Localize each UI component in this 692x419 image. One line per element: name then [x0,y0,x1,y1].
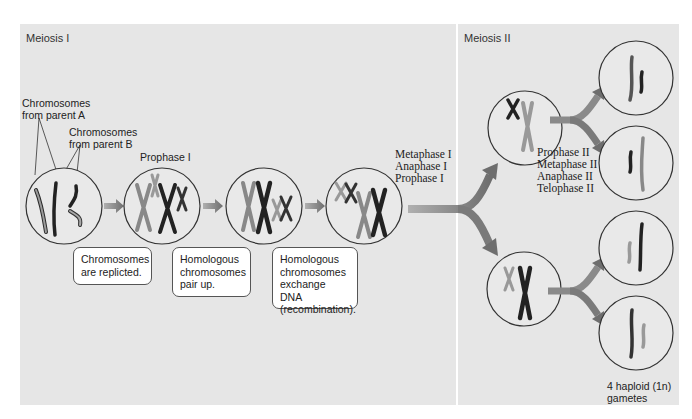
meiosis-2-phases-label: Prophase II Metaphase II Anaphase II Tel… [537,146,597,194]
parent-b-label: Chromosomes from parent B [69,126,137,150]
phase-prophase-2: Prophase II [537,146,597,158]
cell-2-prophase-1 [124,168,200,244]
arrow-1 [104,199,124,213]
gamete-cell-4 [599,296,673,370]
phase-telophase-2: Telophase II [537,182,597,194]
arrow-2 [203,199,223,213]
parent-b-line-1: Chromosomes [69,126,137,138]
phase-metaphase-1: Metaphase I [395,148,452,160]
arrow-3 [305,199,325,213]
cell-3-pairing [226,168,302,244]
split-arrow-meiosis-2-bottom [548,256,606,327]
callout-recombination: Homologous chromosomes exchange DNA (rec… [272,247,358,309]
callout-line: exchange DNA [280,278,350,303]
gametes-line-1: 4 haploid (1n) [607,380,671,392]
phase-prophase-1: Prophase I [395,172,452,184]
phase-metaphase-2: Metaphase II [537,158,597,170]
callout-line: Homologous [180,253,243,266]
callout-replication: Chromosomes are replicted. [73,247,152,285]
meiosis-1-phases-label: Metaphase I Anaphase I Prophase I [395,148,452,184]
parent-b-line-2: from parent B [69,138,137,150]
gamete-cell-2 [599,126,673,200]
callout-line: Homologous [280,253,350,266]
phase-anaphase-1: Anaphase I [395,160,452,172]
parent-a-line-2: from parent A [22,109,90,121]
gametes-line-2: gametes [607,392,671,404]
parent-a-label: Chromosomes from parent A [22,97,90,121]
gamete-cell-1 [599,41,673,115]
callout-line: (recombination). [280,303,350,316]
meiosis-diagram [0,0,692,419]
gametes-label: 4 haploid (1n) gametes [607,380,671,404]
callout-line: chromosomes [180,266,243,279]
prophase-1-label: Prophase I [140,151,191,163]
cell-4-recombination [326,168,402,244]
callout-line: Chromosomes [81,253,144,266]
phase-anaphase-2: Anaphase II [537,170,597,182]
callout-pairing: Homologous chromosomes pair up. [172,247,251,297]
callout-line: are replicted. [81,266,144,279]
parent-a-line-1: Chromosomes [22,97,90,109]
cell-1 [26,168,102,244]
gamete-cell-3 [599,211,673,285]
callout-line: chromosomes [280,266,350,279]
callout-line: pair up. [180,278,243,291]
